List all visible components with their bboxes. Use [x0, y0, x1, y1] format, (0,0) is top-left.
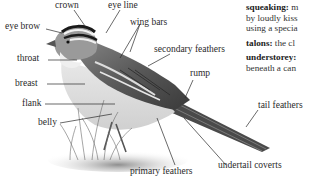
label-throat: throat [17, 53, 39, 64]
label-eye-line: eye line [108, 0, 138, 11]
glossary-term: talons: [246, 38, 273, 48]
label-rump: rump [190, 68, 210, 79]
label-flank: flank [22, 98, 42, 109]
glossary-text: beneath a can [246, 63, 310, 74]
glossary-term: understorey: [246, 52, 296, 62]
glossary-text: by loudly kiss [246, 13, 310, 24]
glossary-text: m [291, 2, 298, 12]
glossary-term: squeaking: [246, 2, 289, 12]
label-secondary-feathers: secondary feathers [154, 44, 225, 55]
glossary-entry-understorey: understorey: beneath a can [246, 52, 310, 73]
glossary-text: using a specia [246, 23, 310, 34]
label-belly: belly [38, 117, 57, 128]
book-page: crown eye line eye brow wing bars throat… [0, 0, 310, 188]
label-breast: breast [15, 78, 38, 89]
label-tail-feathers: tail feathers [258, 100, 303, 111]
glossary: squeaking: m by loudly kiss using a spec… [246, 2, 310, 78]
label-wing-bars: wing bars [130, 17, 167, 28]
glossary-text: the cl [275, 38, 295, 48]
label-primary-feathers: primary feathers [130, 166, 193, 177]
beak-shape [46, 40, 56, 47]
label-eye-brow: eye brow [5, 21, 40, 32]
glossary-entry-talons: talons: the cl [246, 38, 310, 49]
label-crown: crown [55, 0, 79, 11]
glossary-entry-squeaking: squeaking: m by loudly kiss using a spec… [246, 2, 310, 34]
label-undertail-coverts: undertail coverts [218, 160, 282, 171]
